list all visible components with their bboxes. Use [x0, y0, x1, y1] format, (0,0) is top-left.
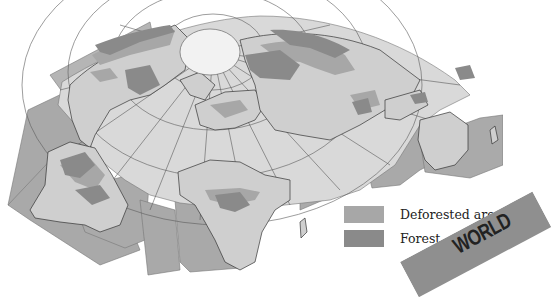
forest-swatch: [344, 230, 384, 247]
madagascar: [300, 218, 307, 238]
arctic-ice-cap: [180, 29, 240, 75]
deforested-swatch: [344, 206, 384, 223]
